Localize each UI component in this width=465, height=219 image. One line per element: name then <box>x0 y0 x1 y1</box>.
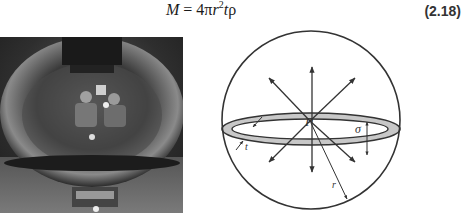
label-thickness-t: t <box>245 141 248 152</box>
label-pressure-p: P <box>304 114 313 129</box>
label-radius-r: r <box>332 179 336 190</box>
spherical-shell-diagram: P σ t r <box>0 0 465 219</box>
